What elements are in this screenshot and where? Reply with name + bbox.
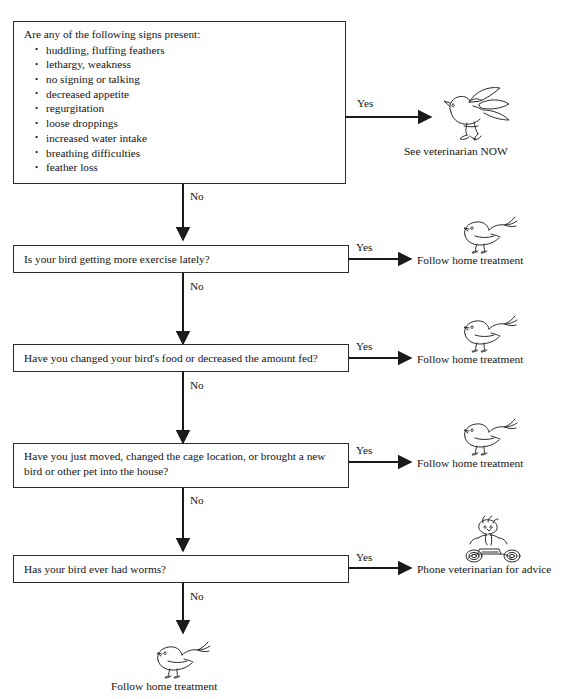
edge-label-no-1: No bbox=[190, 190, 204, 202]
signs-list: huddling, fluffing feathers lethargy, we… bbox=[24, 43, 336, 175]
flowchart-canvas: Are any of the following signs present: … bbox=[0, 0, 573, 699]
outcome-follow-home-treatment-final: Follow home treatment bbox=[111, 680, 217, 693]
question-text: Is your bird getting more exercise latel… bbox=[24, 252, 210, 267]
bird-on-telephone-icon bbox=[460, 516, 530, 564]
outcome-follow-home-treatment-1: Follow home treatment bbox=[417, 254, 523, 267]
question-box-food[interactable]: Have you changed your bird's food or dec… bbox=[13, 344, 349, 372]
list-item: lethargy, weakness bbox=[35, 57, 336, 72]
edge-label-no-5: No bbox=[190, 590, 204, 602]
resting-bird-icon bbox=[459, 213, 521, 253]
question-text: Have you changed your bird's food or dec… bbox=[24, 351, 318, 366]
edge-label-yes-4: Yes bbox=[356, 444, 372, 456]
edge-label-yes-2: Yes bbox=[356, 241, 372, 253]
question-box-signs[interactable]: Are any of the following signs present: … bbox=[13, 21, 346, 184]
outcome-follow-home-treatment-3: Follow home treatment bbox=[417, 457, 523, 470]
question-text: Has your bird ever had worms? bbox=[24, 562, 166, 577]
list-item: huddling, fluffing feathers bbox=[35, 43, 336, 58]
resting-bird-icon bbox=[459, 415, 521, 455]
outcome-see-vet-now: See veterinarian NOW bbox=[404, 145, 508, 158]
edge-label-no-2: No bbox=[190, 280, 204, 292]
question-box-exercise[interactable]: Is your bird getting more exercise latel… bbox=[13, 245, 349, 273]
resting-bird-icon bbox=[152, 638, 214, 678]
list-item: no signing or talking bbox=[35, 72, 336, 87]
flying-bird-icon bbox=[443, 82, 521, 144]
list-item: decreased appetite bbox=[35, 87, 336, 102]
outcome-follow-home-treatment-2: Follow home treatment bbox=[417, 353, 523, 366]
question-text-line-2: bird or other pet into the house? bbox=[24, 465, 168, 477]
edge-label-yes-3: Yes bbox=[356, 340, 372, 352]
signs-question-lead: Are any of the following signs present: bbox=[24, 27, 336, 42]
list-item: breathing difficulties bbox=[35, 146, 336, 161]
list-item: feather loss bbox=[35, 160, 336, 175]
edge-label-yes-5: Yes bbox=[356, 551, 372, 563]
edge-label-yes-1: Yes bbox=[357, 97, 373, 109]
edge-label-no-3: No bbox=[190, 379, 204, 391]
edge-label-no-4: No bbox=[190, 494, 204, 506]
question-box-environment[interactable]: Have you just moved, changed the cage lo… bbox=[13, 443, 349, 488]
list-item: regurgitation bbox=[35, 101, 336, 116]
resting-bird-icon bbox=[459, 312, 521, 352]
question-box-worms[interactable]: Has your bird ever had worms? bbox=[13, 555, 349, 583]
outcome-phone-veterinarian: Phone veterinarian for advice bbox=[417, 563, 551, 576]
question-text-line-1: Have you just moved, changed the cage lo… bbox=[24, 450, 325, 462]
list-item: increased water intake bbox=[35, 131, 336, 146]
list-item: loose droppings bbox=[35, 116, 336, 131]
